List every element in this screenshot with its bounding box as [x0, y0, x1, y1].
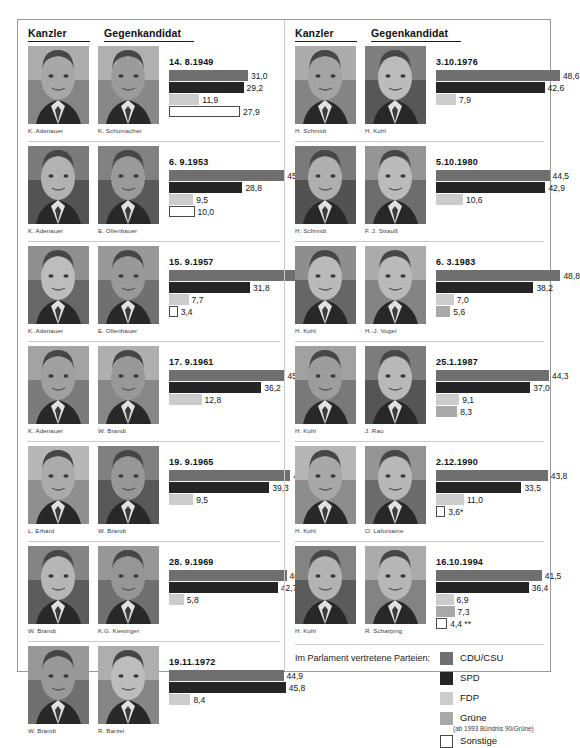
bar-fill: [169, 270, 297, 281]
challenger-photo: [98, 46, 159, 124]
chancellor-portrait-block: L. Erhard: [28, 446, 89, 541]
bar-value-label: 27,9: [243, 107, 260, 117]
bar-son: 3,6*: [436, 506, 567, 517]
portrait-pair: K. AdenauerW. Brandt: [28, 346, 159, 441]
bar-fill: [436, 606, 455, 617]
bar-fill: [436, 594, 454, 605]
bar-value-label: 48,8: [563, 271, 580, 281]
bar-spd: 33,5: [436, 482, 567, 493]
chancellor-portrait-block: H. Schmidt: [295, 46, 356, 141]
bar-spd: 37,0: [436, 382, 569, 393]
election-row: H. KohlJ. Rau25.1.198744,337,09,18,3: [295, 342, 544, 442]
bar-fill: [169, 582, 278, 593]
portrait-pair: K. AdenauerE. Ollenhauer: [28, 246, 159, 341]
legend-label: SPD: [460, 672, 480, 684]
election-bar-chart: 5.10.198044,542,910,6: [426, 146, 569, 241]
legend-item-gru: Grüne(ab 1993 Bündnis 90/Grüne): [440, 712, 534, 733]
bar-value-label: 12,8: [205, 395, 222, 405]
chancellor-name: H. Kohl: [295, 524, 356, 534]
bar-cdu: 44,3: [436, 370, 569, 381]
chancellor-name: H. Schmidt: [295, 224, 356, 234]
challenger-name: R. Scharping: [365, 624, 426, 634]
bar-fdp: 10,6: [436, 194, 569, 205]
election-row: K. AdenauerE. Ollenhauer6. 9.195345,228,…: [28, 142, 280, 242]
bar-group: 48,838,27,05,6: [436, 270, 580, 317]
bar-fill: [169, 670, 284, 681]
election-row: K. AdenauerW. Brandt17. 9.196145,336,212…: [28, 342, 280, 442]
bar-value-label: 31,0: [251, 71, 268, 81]
bar-fill: [169, 470, 290, 481]
bar-cdu: 43,8: [436, 470, 567, 481]
election-date: 2.12.1990: [436, 457, 567, 467]
bar-fdp: 8,4: [169, 694, 305, 705]
legend: Im Parlament vertretene Parteien: CDU/CS…: [295, 644, 544, 748]
bar-group: 48,642,67,9: [436, 70, 579, 105]
chancellor-name: H. Kohl: [295, 624, 356, 634]
bar-value-label: 36,2: [264, 383, 281, 393]
legend-title: Im Parlament vertretene Parteien:: [295, 652, 430, 748]
bar-fill: [436, 370, 549, 381]
bar-spd: 29,2: [169, 82, 280, 93]
election-row: H. SchmidtF. J. Strauß5.10.198044,542,91…: [295, 142, 544, 242]
two-column-layout: Kanzler Gegenkandidat K. AdenauerK. Schu…: [18, 20, 550, 671]
bar-cdu: 41,5: [436, 570, 561, 581]
bar-gru: 7,3: [436, 606, 561, 617]
left-column: Kanzler Gegenkandidat K. AdenauerK. Schu…: [18, 20, 284, 671]
bar-value-label: 10,6: [466, 195, 483, 205]
bar-fill: [436, 570, 542, 581]
challenger-name: E. Ollenhauer: [98, 224, 159, 234]
bar-fill: [169, 194, 193, 205]
bar-fdp: 11,9: [169, 94, 280, 105]
challenger-portrait-block: K.G. Kiesinger: [98, 546, 159, 641]
chancellor-name: K. Adenauer: [28, 324, 89, 334]
bar-value-label: 42,6: [548, 83, 565, 93]
bar-fdp: 11,0: [436, 494, 567, 505]
bar-fill: [436, 394, 459, 405]
chancellor-photo: [28, 346, 89, 424]
chancellor-name: L. Erhard: [28, 524, 89, 534]
challenger-portrait-block: H. Kohl: [365, 46, 426, 141]
bar-group: 41,536,46,97,34,4 **: [436, 570, 561, 629]
bar-fill: [169, 282, 250, 293]
challenger-name: R. Barzel: [98, 724, 159, 734]
bar-value-label: 9,1: [462, 395, 474, 405]
bar-value-label: 11,9: [202, 95, 218, 105]
bar-fill: [436, 270, 560, 281]
bar-fill: [436, 582, 529, 593]
bar-value-label: 37,0: [533, 383, 550, 393]
challenger-name: K.G. Kiesinger: [98, 624, 159, 634]
legend-label: CDU/CSU: [460, 652, 503, 664]
chart-frame: Kanzler Gegenkandidat K. AdenauerK. Schu…: [17, 19, 551, 672]
challenger-name: W. Brandt: [98, 424, 159, 434]
election-row: W. BrandtK.G. Kiesinger28. 9.196946,142,…: [28, 542, 280, 642]
election-date: 14. 8.1949: [169, 57, 280, 67]
chancellor-portrait-block: K. Adenauer: [28, 146, 89, 241]
legend-sublabel: (ab 1993 Bündnis 90/Grüne): [453, 725, 534, 733]
chancellor-portrait-block: W. Brandt: [28, 646, 89, 742]
bar-value-label: 31,8: [253, 283, 270, 293]
legend-label-wrap: Grüne(ab 1993 Bündnis 90/Grüne): [453, 712, 534, 733]
chancellor-portrait-block: H. Kohl: [295, 246, 356, 341]
bar-fill: [169, 682, 286, 693]
bar-cdu: 44,5: [436, 170, 569, 181]
challenger-portrait-block: E. Ollenhauer: [98, 146, 159, 241]
chancellor-photo: [28, 546, 89, 624]
challenger-photo: [98, 446, 159, 524]
challenger-name: J. Rau: [365, 424, 426, 434]
challenger-portrait-block: R. Scharping: [365, 546, 426, 642]
election-bar-chart: 6. 9.195345,228,89,510,0: [159, 146, 304, 241]
bar-value-label: 28,8: [245, 183, 262, 193]
challenger-name: H. Kohl: [365, 124, 426, 134]
chancellor-portrait-block: H. Schmidt: [295, 146, 356, 241]
legend-item-cdu: CDU/CSU: [440, 652, 534, 665]
chancellor-photo: [28, 146, 89, 224]
challenger-photo: [365, 246, 426, 324]
election-rows-right: H. SchmidtH. Kohl3.10.197648,642,67,9H. …: [295, 42, 544, 642]
bar-fill: [436, 382, 530, 393]
bar-fill: [169, 394, 202, 405]
bar-spd: 42,6: [436, 82, 579, 93]
election-row: K. AdenauerE. Ollenhauer15. 9.195750,231…: [28, 242, 280, 342]
challenger-portrait-block: H.-J. Vogel: [365, 246, 426, 341]
chancellor-name: W. Brandt: [28, 724, 89, 734]
bar-value-label: 43,8: [551, 471, 568, 481]
